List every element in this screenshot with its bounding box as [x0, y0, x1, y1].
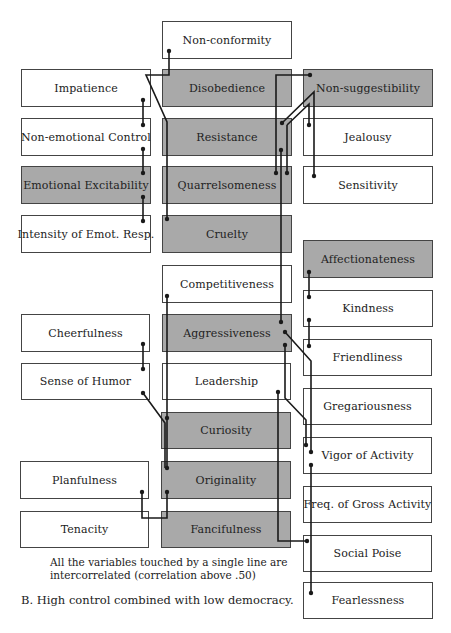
note-line-1: All the variables touched by a single li… [50, 556, 288, 569]
note-line-2: intercorrelated (correlation above .50) [50, 569, 288, 582]
correlation-lines [0, 0, 451, 633]
figure-caption: B. High control combined with low democr… [21, 593, 294, 607]
line-nonconformity-cruelty [146, 51, 169, 219]
diagram-note: All the variables touched by a single li… [50, 556, 288, 582]
